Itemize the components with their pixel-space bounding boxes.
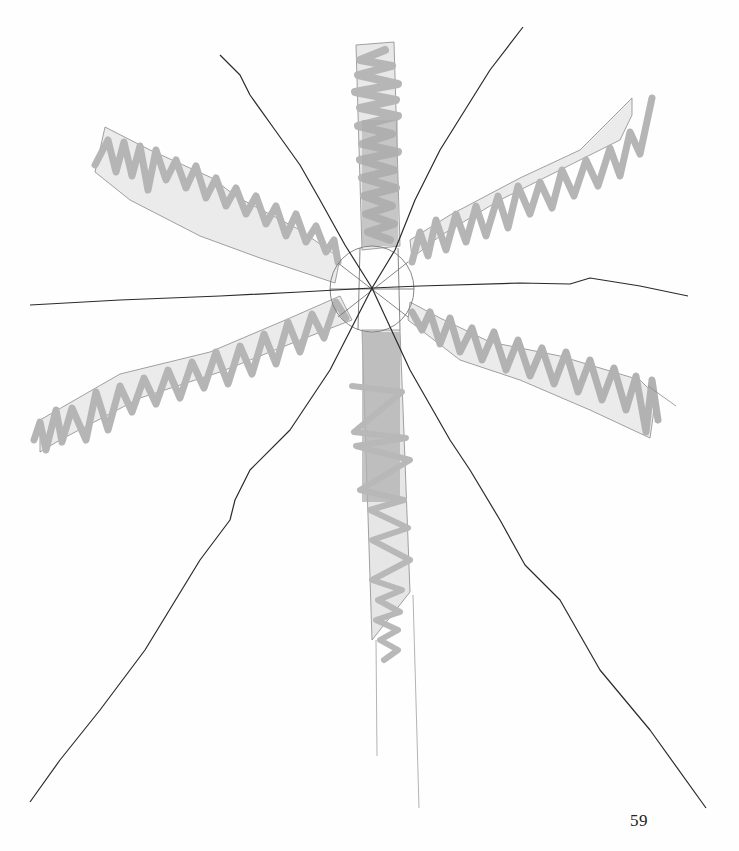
band-top xyxy=(355,42,400,250)
ray-right xyxy=(372,278,688,296)
book-page: 59 xyxy=(0,0,739,851)
ray-left xyxy=(30,288,372,305)
page-number: 59 xyxy=(630,811,648,831)
band-lower-left xyxy=(34,296,352,452)
band-lower-right xyxy=(408,302,676,438)
band-upper-right xyxy=(410,98,652,262)
band-upper-left xyxy=(95,127,340,283)
band-bottom xyxy=(352,330,419,808)
radial-drawing xyxy=(0,0,739,851)
